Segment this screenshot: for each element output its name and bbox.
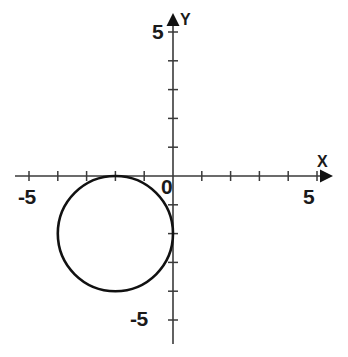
- plot-series-circle: [58, 176, 173, 291]
- coordinate-plot: [0, 0, 348, 357]
- y-axis-arrow-icon: [167, 13, 180, 26]
- x-axis-group: [15, 170, 333, 183]
- x-axis-tick-label-negative: -5: [18, 186, 36, 207]
- y-axis-tick-label-positive: 5: [152, 21, 163, 42]
- origin-label: 0: [161, 176, 172, 197]
- x-axis-name-label: X: [317, 154, 328, 170]
- y-axis-tick-label-negative: -5: [130, 308, 148, 329]
- x-axis-tick-label-positive: 5: [303, 186, 314, 207]
- x-axis-arrow-icon: [320, 170, 333, 183]
- y-axis-name-label: Y: [180, 12, 191, 28]
- plot-canvas: 5 -5 -5 5 0 Y X: [0, 0, 348, 357]
- circle-curve: [58, 176, 173, 291]
